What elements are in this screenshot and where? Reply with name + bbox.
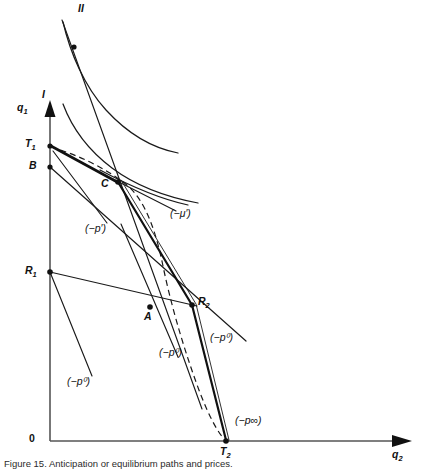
figure-caption: Figure 15. Anticipation or equilibrium p… <box>4 459 421 470</box>
point-label-B: B <box>29 160 37 174</box>
dot-on-curve-II <box>71 44 76 49</box>
price-label-p0-lower-left: (−p⁰) <box>67 376 90 387</box>
point-label-R2: R2 <box>198 296 210 310</box>
curve-label-II: II <box>78 3 84 14</box>
line-price-p0-from-R1 <box>50 272 92 376</box>
price-label-p0-right: (−p⁰) <box>210 332 233 343</box>
point-label-C: C <box>101 178 109 192</box>
point-label-T2: T2 <box>220 446 231 460</box>
axes-group <box>45 100 413 447</box>
origin-label: 0 <box>29 433 35 444</box>
curve-segment-right-of-C <box>100 170 188 205</box>
y-axis-arrow-icon <box>45 100 56 117</box>
dot-T2 <box>223 438 229 444</box>
point-label-R1: R1 <box>25 265 37 279</box>
curve-label-I: I <box>42 89 45 100</box>
y-axis-label: q1 <box>17 102 28 116</box>
price-label-mu-prime: (−μ′) <box>170 208 191 219</box>
dot-R1 <box>47 269 53 275</box>
point-label-T1: T1 <box>25 138 36 152</box>
dot-R2 <box>189 302 195 308</box>
dot-A <box>147 304 153 310</box>
point-label-A: A <box>144 311 152 325</box>
figure-root: q1 q2 0 T1 B R1 C A R2 T2 I II (−p′) (−μ… <box>0 0 425 470</box>
economics-plot <box>0 0 425 470</box>
dot-C <box>115 179 121 185</box>
thin-companion-path-C-T2 <box>121 180 229 440</box>
price-label-p-infinity: (−p∞) <box>235 415 261 426</box>
dot-B <box>47 164 52 169</box>
x-axis-arrow-icon <box>392 435 412 447</box>
price-label-p-prime-left: (−p′) <box>85 223 106 234</box>
price-label-p0-center: (−p⁰) <box>159 347 182 358</box>
dot-T1 <box>47 143 52 148</box>
curve-indifference-II <box>63 22 178 153</box>
